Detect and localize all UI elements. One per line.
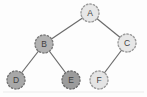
edges-layer (16, 13, 127, 80)
nodes-layer: ABCDEF (7, 4, 136, 89)
diagram-canvas: ABCDEF (0, 0, 147, 97)
tree-diagram: ABCDEF (0, 0, 147, 97)
tree-node-B: B (35, 35, 53, 53)
node-circle-A (81, 4, 99, 22)
tree-node-E: E (62, 71, 80, 89)
tree-node-C: C (118, 34, 136, 52)
node-circle-B (35, 35, 53, 53)
node-circle-F (90, 71, 108, 89)
node-circle-C (118, 34, 136, 52)
tree-node-F: F (90, 71, 108, 89)
node-circle-D (7, 71, 25, 89)
tree-node-D: D (7, 71, 25, 89)
node-circle-E (62, 71, 80, 89)
tree-node-A: A (81, 4, 99, 22)
